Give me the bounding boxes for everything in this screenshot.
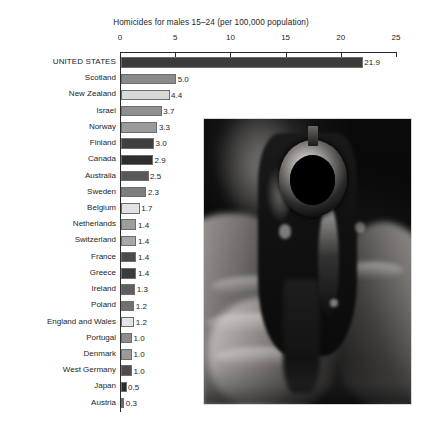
bar-value-label: 5.0: [178, 75, 189, 84]
bar: [121, 138, 154, 148]
bar: [121, 382, 127, 392]
bar-value-label: 3.7: [163, 107, 174, 116]
chart-title: Homicides for males 15–24 (per 100,000 p…: [0, 18, 422, 27]
revolver-photo: [203, 118, 412, 405]
bar-row: New Zealand4.4: [0, 87, 422, 103]
bar-value-label: 1.4: [138, 221, 149, 230]
bar: [121, 187, 146, 197]
bar: [121, 122, 157, 132]
bar-category-label: Japan: [0, 381, 116, 391]
x-tick-label: 25: [392, 33, 401, 42]
bar-value-label: 3.0: [156, 139, 167, 148]
bar-category-label: Switzerland: [0, 235, 116, 245]
bar: [121, 268, 136, 278]
bar: [121, 333, 132, 343]
bar: [121, 236, 136, 246]
bar-value-label: 1.0: [134, 367, 145, 376]
bar-value-label: 1.2: [136, 302, 147, 311]
bar-category-label: Denmark: [0, 349, 116, 359]
bar-row: UNITED STATES21.9: [0, 55, 422, 71]
bar-value-label: 1.3: [137, 285, 148, 294]
bar-category-label: UNITED STATES: [0, 57, 116, 67]
bar: [121, 106, 162, 116]
bar: [121, 203, 140, 213]
x-tick-label: 0: [118, 33, 122, 42]
bar-category-label: Sweden: [0, 187, 116, 197]
bar-value-label: 1.4: [138, 237, 149, 246]
bar-category-label: Portugal: [0, 333, 116, 343]
x-axis-tick-labels: 0510152025: [0, 33, 422, 45]
bar: [121, 349, 132, 359]
bar: [121, 317, 134, 327]
bar: [121, 365, 132, 375]
bar: [121, 284, 135, 294]
bar: [121, 219, 136, 229]
bar-category-label: Belgium: [0, 203, 116, 213]
bar-category-label: Norway: [0, 122, 116, 132]
bar-value-label: 2.3: [148, 188, 159, 197]
bar-category-label: Netherlands: [0, 219, 116, 229]
bar-row: Scotland5.0: [0, 71, 422, 87]
bar-category-label: Austria: [0, 398, 116, 408]
bar-category-label: England and Wales: [0, 317, 116, 327]
x-axis-line: [120, 52, 396, 53]
x-tick-label: 10: [226, 33, 235, 42]
bar-value-label: 0.5: [128, 383, 139, 392]
bar-value-label: 3.3: [159, 123, 170, 132]
x-tick-label: 15: [281, 33, 290, 42]
x-tick-label: 20: [336, 33, 345, 42]
bar-category-label: Canada: [0, 154, 116, 164]
bar-category-label: Ireland: [0, 284, 116, 294]
bar-category-label: France: [0, 252, 116, 262]
bar: [121, 171, 149, 181]
bar-value-label: 1.0: [134, 334, 145, 343]
chart-figure: Homicides for males 15–24 (per 100,000 p…: [0, 0, 422, 431]
x-tick-label: 5: [173, 33, 177, 42]
bar-value-label: 1.4: [138, 253, 149, 262]
bar: [121, 155, 153, 165]
bar-value-label: 21.9: [364, 58, 380, 67]
bar-value-label: 1.0: [134, 350, 145, 359]
bar-category-label: Poland: [0, 300, 116, 310]
bar: [121, 74, 176, 84]
bar-category-label: Israel: [0, 106, 116, 116]
bar-category-label: Scotland: [0, 73, 116, 83]
bar-value-label: 0.3: [126, 399, 137, 408]
bar: [121, 90, 170, 100]
bar-category-label: Australia: [0, 171, 116, 181]
bar-value-label: 1.2: [136, 318, 147, 327]
bar-value-label: 1.7: [141, 204, 152, 213]
bar-category-label: New Zealand: [0, 89, 116, 99]
bar-value-label: 1.4: [138, 269, 149, 278]
bar: [121, 301, 134, 311]
bar-value-label: 4.4: [171, 91, 182, 100]
bar-category-label: Greece: [0, 268, 116, 278]
bar: [121, 398, 124, 408]
bar-category-label: Finland: [0, 138, 116, 148]
bar-value-label: 2.9: [155, 156, 166, 165]
bar: [121, 252, 136, 262]
bar-category-label: West Germany: [0, 365, 116, 375]
bar-value-label: 2.5: [150, 172, 161, 181]
bar: [121, 57, 363, 67]
